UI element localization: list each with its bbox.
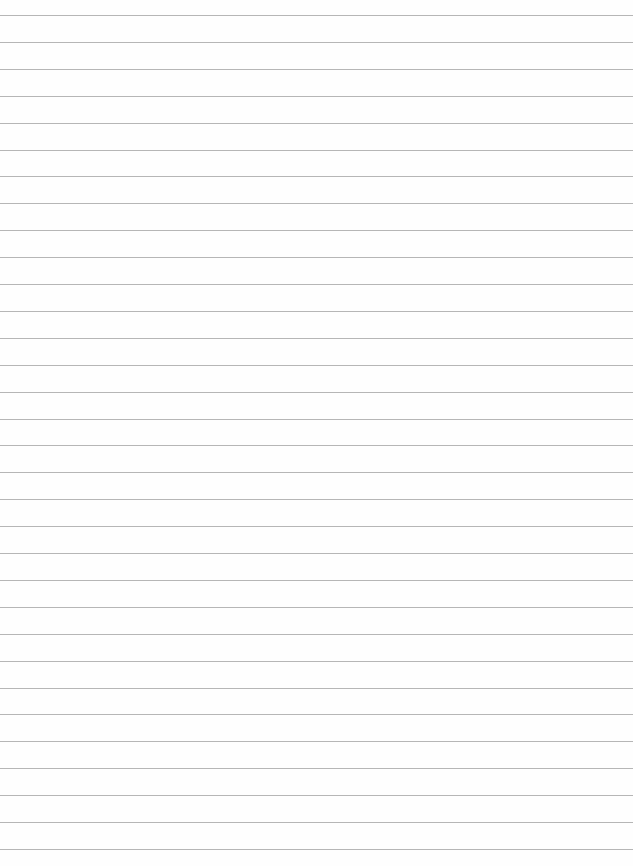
ruled-line (0, 445, 633, 446)
ruled-line (0, 553, 633, 554)
ruled-line (0, 69, 633, 70)
ruled-line (0, 741, 633, 742)
ruled-line (0, 472, 633, 473)
ruled-line (0, 176, 633, 177)
ruled-line (0, 230, 633, 231)
ruled-line (0, 150, 633, 151)
ruled-line (0, 392, 633, 393)
lined-paper-sheet (0, 0, 633, 866)
ruled-line (0, 795, 633, 796)
ruled-line (0, 607, 633, 608)
ruled-line (0, 768, 633, 769)
ruled-line (0, 311, 633, 312)
ruled-line (0, 822, 633, 823)
ruled-line (0, 96, 633, 97)
ruled-line (0, 419, 633, 420)
ruled-line (0, 688, 633, 689)
ruled-line (0, 526, 633, 527)
ruled-line (0, 15, 633, 16)
ruled-line (0, 42, 633, 43)
ruled-line (0, 203, 633, 204)
ruled-line (0, 338, 633, 339)
ruled-line (0, 714, 633, 715)
ruled-line (0, 661, 633, 662)
ruled-line (0, 634, 633, 635)
ruled-line (0, 365, 633, 366)
ruled-line (0, 580, 633, 581)
ruled-line (0, 284, 633, 285)
ruled-line (0, 123, 633, 124)
ruled-line (0, 499, 633, 500)
ruled-line (0, 849, 633, 850)
ruled-line (0, 257, 633, 258)
